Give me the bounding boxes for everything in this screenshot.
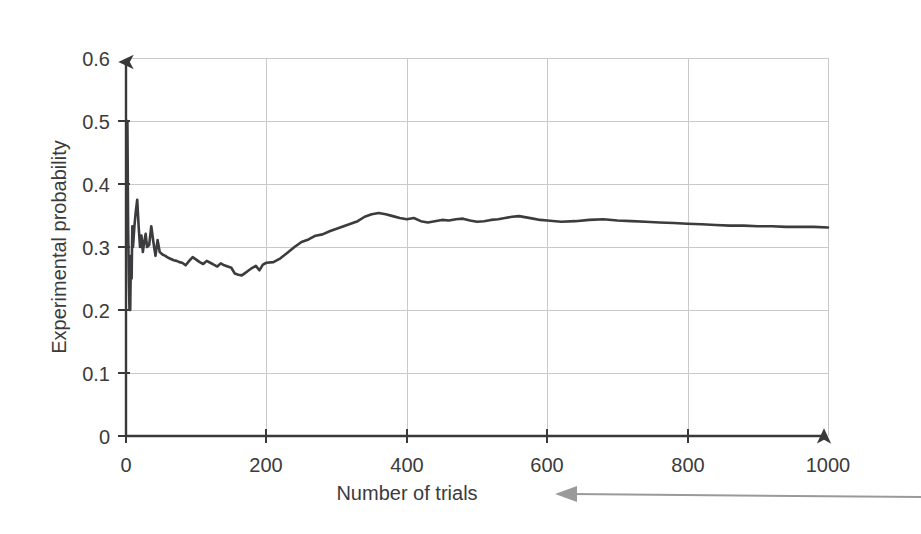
data-series-group — [127, 121, 828, 310]
x-tick-label-800: 800 — [671, 454, 704, 476]
y-tick-labels: 0.6 0.5 0.4 0.3 0.2 0.1 0 — [82, 48, 110, 448]
x-tick-labels: 0 200 400 600 800 1000 — [120, 454, 850, 476]
x-tick-label-200: 200 — [249, 454, 282, 476]
y-axis-title: Experimental probability — [48, 140, 70, 353]
axes — [118, 62, 824, 443]
series-line-experimental-probability — [127, 121, 828, 310]
y-tick-label-0-3: 0.3 — [82, 237, 110, 259]
chart-canvas: 0.6 0.5 0.4 0.3 0.2 0.1 0 0 200 400 600 … — [0, 0, 921, 534]
y-tick-label-0-5: 0.5 — [82, 111, 110, 133]
chart-figure: 0.6 0.5 0.4 0.3 0.2 0.1 0 0 200 400 600 … — [0, 0, 921, 534]
y-tick-label-0-4: 0.4 — [82, 174, 110, 196]
x-axis-title: Number of trials — [336, 482, 477, 504]
x-tick-label-600: 600 — [530, 454, 563, 476]
callout-arrow-shaft — [572, 494, 921, 497]
x-tick-label-400: 400 — [390, 454, 423, 476]
callout-arrow-annotation — [555, 486, 921, 502]
y-tick-label-0-6: 0.6 — [82, 48, 110, 70]
y-tick-label-0-2: 0.2 — [82, 300, 110, 322]
y-tick-label-0-1: 0.1 — [82, 363, 110, 385]
y-tick-label-0: 0 — [99, 426, 110, 448]
grid-lines — [126, 58, 828, 436]
x-tick-label-0: 0 — [120, 454, 131, 476]
x-tick-label-1000: 1000 — [806, 454, 851, 476]
arrow-left-icon — [555, 486, 577, 502]
